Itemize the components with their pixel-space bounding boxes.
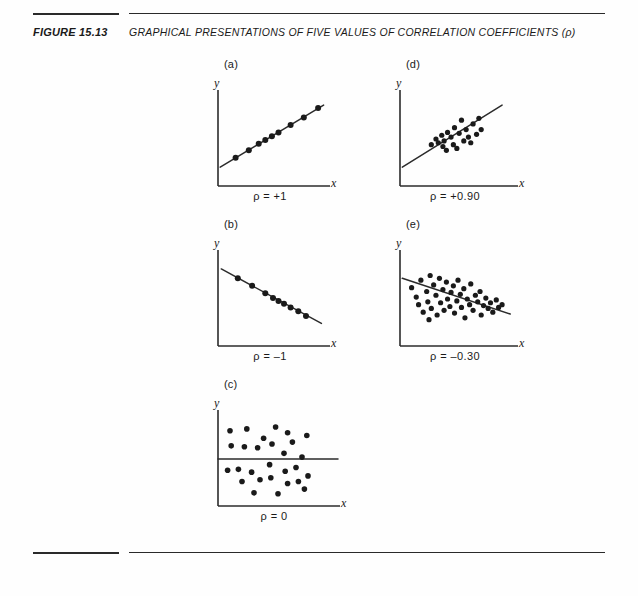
data-point bbox=[488, 300, 493, 305]
data-point bbox=[440, 287, 445, 292]
data-point bbox=[462, 315, 467, 320]
data-point bbox=[461, 138, 466, 143]
panel-c-plot bbox=[190, 398, 350, 516]
data-point bbox=[288, 304, 294, 310]
panel-b: (b) y x ρ = –1 bbox=[190, 218, 360, 376]
data-point bbox=[256, 141, 262, 147]
data-point bbox=[267, 462, 273, 468]
data-point bbox=[467, 302, 472, 307]
panel-b-rho-label: ρ = –1 bbox=[190, 350, 350, 362]
data-point bbox=[296, 479, 302, 485]
data-point bbox=[454, 298, 459, 303]
panel-c: (c) y x ρ = 0 bbox=[190, 378, 365, 536]
data-point bbox=[262, 137, 268, 143]
panel-b-plot bbox=[190, 238, 340, 356]
panel-e-plot bbox=[372, 238, 528, 356]
panel-d-rho-label: ρ = +0.90 bbox=[372, 190, 538, 202]
data-point bbox=[490, 310, 495, 315]
data-point bbox=[285, 481, 291, 487]
data-point bbox=[275, 491, 281, 497]
figure-page: FIGURE 15.13 GRAPHICAL PRESENTATIONS OF … bbox=[0, 0, 638, 596]
data-point bbox=[225, 467, 231, 473]
data-point bbox=[246, 147, 252, 153]
panel-a-label: (a) bbox=[224, 58, 238, 70]
data-point bbox=[447, 304, 452, 309]
data-point bbox=[459, 305, 464, 310]
data-point bbox=[249, 469, 255, 475]
header-rule-left bbox=[33, 13, 119, 15]
data-point bbox=[499, 302, 504, 307]
data-point bbox=[455, 278, 460, 283]
footer-rule-right bbox=[129, 552, 605, 553]
data-point bbox=[494, 297, 499, 302]
data-point bbox=[288, 122, 294, 128]
data-point bbox=[457, 131, 462, 136]
data-point bbox=[239, 479, 245, 485]
panel-b-label: (b) bbox=[224, 218, 238, 230]
data-point bbox=[483, 295, 488, 300]
data-point bbox=[476, 116, 481, 121]
data-point bbox=[470, 121, 475, 126]
panel-e-rho-label: ρ = –0.30 bbox=[372, 350, 538, 362]
data-point bbox=[477, 289, 482, 294]
data-point bbox=[441, 138, 446, 143]
data-point bbox=[444, 279, 449, 284]
data-point bbox=[293, 465, 299, 471]
data-point bbox=[227, 428, 233, 434]
data-point bbox=[468, 140, 473, 145]
data-point bbox=[285, 430, 291, 436]
panel-d-axes bbox=[400, 90, 518, 186]
data-point bbox=[276, 298, 282, 304]
data-point bbox=[429, 306, 434, 311]
data-point bbox=[425, 299, 430, 304]
data-point bbox=[414, 295, 419, 300]
data-point bbox=[418, 278, 423, 283]
panel-a-rho-label: ρ = +1 bbox=[190, 190, 350, 202]
data-point bbox=[437, 276, 442, 281]
data-point bbox=[269, 441, 275, 447]
data-point bbox=[458, 292, 463, 297]
data-point bbox=[303, 313, 309, 319]
data-point bbox=[466, 135, 471, 140]
panel-d-label: (d) bbox=[406, 58, 420, 70]
data-point bbox=[474, 132, 479, 137]
data-point bbox=[429, 142, 434, 147]
data-point bbox=[233, 155, 239, 161]
data-point bbox=[479, 127, 484, 132]
data-point bbox=[438, 300, 443, 305]
data-point bbox=[255, 445, 261, 451]
data-point bbox=[421, 310, 426, 315]
panel-d: (d) y x ρ = +0.90 bbox=[372, 58, 547, 216]
data-point bbox=[282, 468, 288, 474]
data-point bbox=[473, 293, 478, 298]
data-point bbox=[439, 133, 444, 138]
data-point bbox=[409, 285, 414, 290]
header-rule-right bbox=[129, 13, 605, 14]
data-point bbox=[481, 303, 486, 308]
footer-rule-left bbox=[33, 552, 119, 554]
data-point bbox=[465, 296, 470, 301]
data-point bbox=[433, 293, 438, 298]
data-point bbox=[276, 129, 282, 135]
data-point bbox=[454, 146, 459, 151]
data-point bbox=[228, 443, 234, 449]
data-point bbox=[416, 302, 421, 307]
panel-a-plot bbox=[190, 78, 340, 196]
data-point bbox=[464, 127, 469, 132]
panel-a: (a) y x ρ = +1 bbox=[190, 58, 360, 216]
data-point bbox=[301, 114, 307, 120]
data-point bbox=[428, 273, 433, 278]
data-point bbox=[445, 296, 450, 301]
panel-d-plot bbox=[372, 78, 528, 196]
data-point bbox=[261, 436, 267, 442]
panel-e-points bbox=[409, 273, 505, 322]
data-point bbox=[262, 290, 268, 296]
data-point bbox=[426, 317, 431, 322]
data-point bbox=[304, 433, 310, 439]
panel-c-points bbox=[225, 424, 311, 496]
data-point bbox=[268, 475, 274, 481]
data-point bbox=[251, 490, 257, 496]
data-point bbox=[257, 477, 263, 483]
data-point bbox=[302, 486, 308, 492]
data-point bbox=[315, 105, 321, 111]
